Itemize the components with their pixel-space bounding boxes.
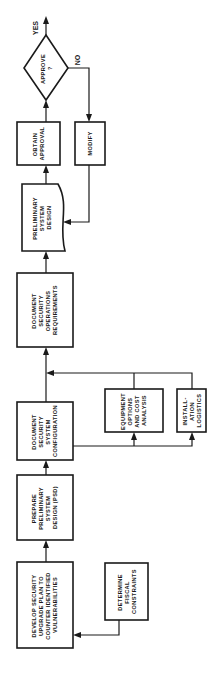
svg-text:MODIFY: MODIFY [87, 131, 93, 155]
box-document-security-operations-requirements: DOCUMENT SECURITY OPERATIONS REQUIREMENT… [17, 273, 73, 347]
box-determine-fiscal-constraints: DETERMINE FISCAL CONSTRAINTS [105, 563, 148, 620]
arrow-up-icon [189, 432, 195, 440]
box-obtain-approval: OBTAIN APPROVAL [17, 122, 60, 165]
box-installation-logistics: INSTALL- ATION LOGISTICS [177, 389, 206, 432]
decision-approve: APPROVE ? [24, 35, 68, 100]
box-modify: MODIFY [75, 122, 105, 165]
arrow-left-icon [73, 632, 81, 638]
arrow-up-icon [43, 540, 49, 548]
arrow-up-icon [43, 165, 49, 173]
arrow-up-icon [43, 251, 49, 259]
box-preliminary-system-design: PRELIMINARY SYSTEM DESIGN [22, 184, 65, 251]
box-develop-security-upgrade-plan: DEVELOP SECURITY UPGRADE PLAN TO COUNTER… [17, 562, 73, 648]
svg-text:DEVELOP SECURITY UPGRADE: DEVELOP SECURITY UPGRADE PLAN TO COUNTER… [31, 570, 58, 639]
svg-text:EQUIPMENT OPTIONS: EQUIPMENT OPTIONS AND COST ANALYSIS [120, 391, 147, 430]
arrow-up-icon [43, 16, 49, 24]
arrow-up-icon [43, 347, 49, 355]
arrow-left-icon [46, 370, 54, 376]
yes-label: YES [32, 21, 39, 35]
arrow-up-icon [131, 432, 137, 440]
svg-text:DOCUMENT SECURITY: DOCUMENT SECURITY OPERATIONS REQUIREMENT… [31, 285, 58, 335]
box-equipment-options-cost-analysis: EQUIPMENT OPTIONS AND COST ANALYSIS [105, 389, 163, 432]
svg-text:OBTAIN APPROVAL: OBTAIN APPROVAL [32, 126, 45, 160]
no-label: NO [74, 54, 81, 65]
box-document-security-system-configuration: DOCUMENT SECURITY SYSTEM CONFIGURATION [17, 402, 73, 460]
arrow-left-icon [63, 219, 71, 225]
arrow-up-icon [43, 460, 49, 468]
flowchart: APPROVE ? YES NO OBTAIN APPROVAL MODIFY … [0, 0, 221, 674]
arrow-down-icon [86, 114, 92, 122]
box-prepare-preliminary-system-design: PREPARE PRELIMINARY SYSTEM DESIGN (PSD) [17, 475, 73, 540]
